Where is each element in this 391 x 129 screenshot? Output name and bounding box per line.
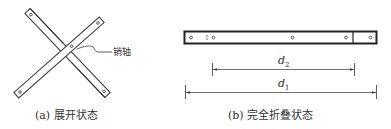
- folded-bar: [185, 31, 377, 44]
- caption-a: (a) 展开状态: [35, 106, 98, 122]
- crossed-bars-unfolded: [14, 9, 112, 98]
- bar-b: [14, 17, 104, 98]
- dimension-d1-label: d1: [278, 77, 290, 92]
- pin-label: 销轴: [113, 45, 131, 58]
- pin-leader-line: [77, 46, 112, 52]
- dimension-d2-label: d2: [278, 54, 290, 69]
- caption-b: (b) 完全折叠状态: [228, 106, 313, 122]
